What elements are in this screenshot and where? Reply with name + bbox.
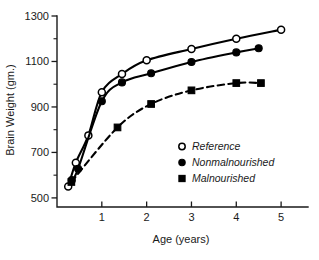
legend-label: Malnourished <box>192 172 256 184</box>
filled-circle-marker <box>188 58 195 65</box>
open-circle-marker <box>233 35 240 42</box>
y-tick-label: 700 <box>31 146 49 158</box>
open-circle-marker <box>118 70 125 77</box>
x-axis-title: Age (years) <box>153 233 210 245</box>
legend-entry: Nonmalnourished <box>179 156 276 168</box>
x-axis-tick-labels: 12345 <box>99 211 284 223</box>
y-axis-tick-labels: 50070090011001300 <box>25 10 49 204</box>
legend-entry: Reference <box>179 140 241 152</box>
open-circle-marker <box>278 26 285 33</box>
y-axis-ticks <box>52 16 58 198</box>
series-malnourished <box>68 80 264 186</box>
x-tick-label: 1 <box>99 211 105 223</box>
open-circle-marker <box>98 89 105 96</box>
x-tick-label: 5 <box>278 211 284 223</box>
open-circle-marker <box>143 57 150 64</box>
chart-plot-area: 50070090011001300 12345 ReferenceNonmaln… <box>0 0 319 260</box>
y-tick-label: 1100 <box>25 55 49 67</box>
legend-entry: Malnourished <box>179 172 256 184</box>
filled-circle-marker <box>255 45 262 52</box>
open-circle-marker <box>188 45 195 52</box>
brain-weight-chart-figure: 50070090011001300 12345 ReferenceNonmaln… <box>0 0 319 260</box>
y-tick-label: 1300 <box>25 10 49 22</box>
legend-filled-circle-icon <box>179 159 185 165</box>
chart-legend: ReferenceNonmalnourishedMalnourished <box>179 140 276 184</box>
filled-square-marker <box>258 80 265 87</box>
legend-open-circle-icon <box>179 143 185 149</box>
y-axis-title: Brain Weight (gm.) <box>4 64 16 156</box>
x-tick-label: 3 <box>188 211 194 223</box>
y-tick-label: 900 <box>31 101 49 113</box>
x-tick-label: 2 <box>144 211 150 223</box>
filled-circle-marker <box>98 98 105 105</box>
filled-circle-marker <box>118 79 125 86</box>
filled-square-marker <box>68 179 75 186</box>
x-tick-label: 4 <box>233 211 239 223</box>
filled-circle-marker <box>233 49 240 56</box>
legend-filled-square-icon <box>179 175 185 181</box>
filled-square-marker <box>148 101 155 108</box>
y-tick-label: 500 <box>31 192 49 204</box>
filled-square-marker <box>114 124 121 131</box>
filled-square-marker <box>188 87 195 94</box>
x-axis-ticks <box>102 202 281 208</box>
filled-circle-marker <box>148 70 155 77</box>
legend-label: Nonmalnourished <box>192 156 275 168</box>
legend-label: Reference <box>192 140 241 152</box>
filled-square-marker <box>233 80 240 87</box>
